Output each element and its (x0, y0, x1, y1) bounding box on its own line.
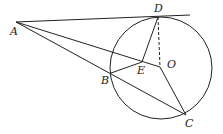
tangent-line-ad (16, 15, 190, 22)
label-c: C (185, 118, 193, 129)
label-o: O (167, 59, 176, 70)
label-b: B (101, 75, 109, 86)
segment-do-dashed (158, 17, 160, 67)
label-d: D (154, 3, 163, 14)
label-a: A (10, 26, 18, 37)
segment-ao (16, 22, 160, 67)
geometry-diagram: A D E O B C (0, 0, 223, 134)
diagram-canvas (0, 0, 223, 134)
label-e: E (137, 65, 145, 76)
segment-de (142, 17, 158, 62)
